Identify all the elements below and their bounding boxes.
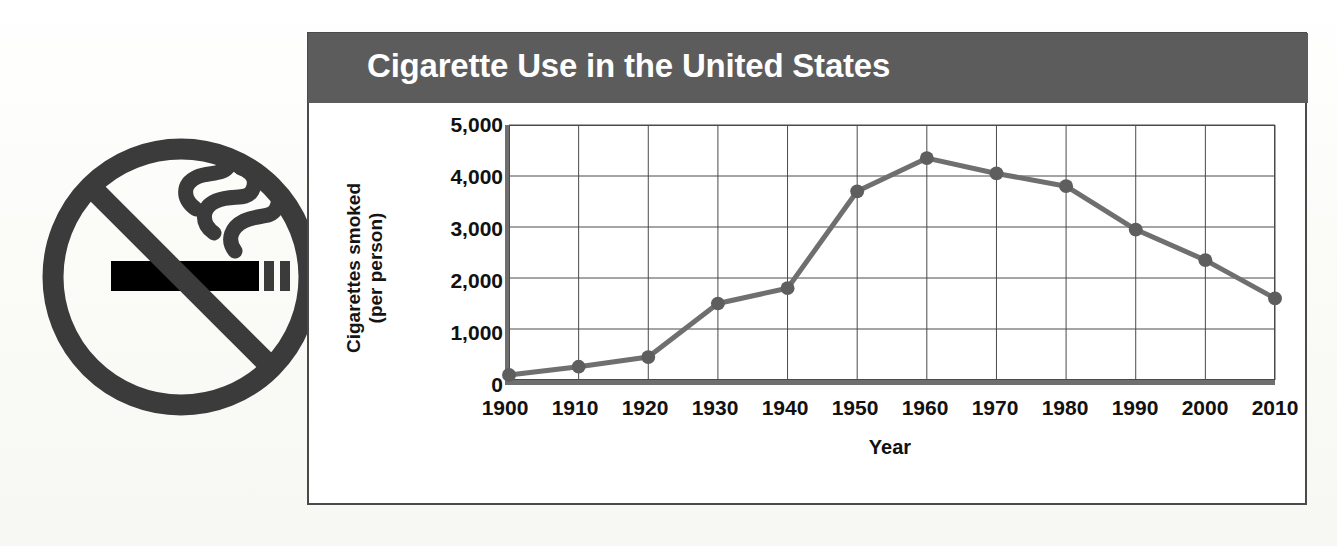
chart-panel: Cigarette Use in the United States Cigar… [307,32,1307,505]
x-tick-label: 1930 [692,396,739,420]
y-axis-title: Cigarettes smoked (per person) [343,142,387,394]
y-axis-title-line-1: Cigarettes smoked [343,142,365,394]
x-tick-label: 1900 [482,396,529,420]
no-smoking-icon [36,131,326,423]
x-tick-label: 1970 [972,396,1019,420]
x-tick-label: 2010 [1252,396,1299,420]
y-tick-label: 4,000 [450,165,503,189]
y-tick-label: 0 [491,373,503,397]
plot-area [505,125,1275,385]
chart-area: Cigarettes smoked (per person) 5,000 4,0… [309,104,1305,503]
x-tick-label: 1990 [1112,396,1159,420]
x-axis-title: Year [505,436,1275,459]
x-tick-label: 1920 [622,396,669,420]
x-tick-label: 1950 [832,396,879,420]
x-tick-label: 1940 [762,396,809,420]
page-title: Cigarette Use in the United States [367,47,890,85]
no-smoking-sign [36,131,326,423]
x-tick-label: 1910 [552,396,599,420]
y-tick-label: 3,000 [450,217,503,241]
x-tick-label: 1960 [902,396,949,420]
x-axis-tick-labels: 1900191019201930194019501960197019801990… [505,396,1279,428]
y-axis-title-line-2: (per person) [365,142,387,394]
y-tick-label: 5,000 [450,113,503,137]
x-tick-label: 1980 [1042,396,1089,420]
data-series-line [509,125,1275,380]
y-tick-label: 2,000 [450,269,503,293]
y-axis-tick-labels: 5,000 4,000 3,000 2,000 1,000 0 [385,104,503,503]
x-tick-label: 2000 [1182,396,1229,420]
y-tick-label: 1,000 [450,321,503,345]
